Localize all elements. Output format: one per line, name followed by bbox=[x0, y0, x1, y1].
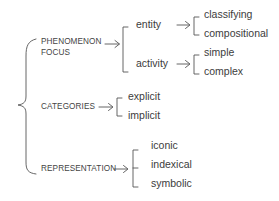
bracket-phenomenon bbox=[123, 27, 128, 72]
node-iconic: iconic bbox=[151, 140, 178, 151]
arrow-icon bbox=[99, 104, 113, 111]
arrow-icon bbox=[177, 61, 190, 68]
node-implicit: implicit bbox=[128, 110, 160, 121]
node-phenomenon-focus-line1: PHENOMENON bbox=[41, 38, 102, 46]
node-simple: simple bbox=[204, 47, 234, 58]
node-activity: activity bbox=[136, 58, 168, 69]
node-complex: complex bbox=[204, 66, 243, 77]
root-curly-brace bbox=[18, 39, 36, 174]
bracket-categories bbox=[117, 98, 122, 116]
arrow-icon bbox=[177, 22, 190, 29]
node-compositional: compositional bbox=[204, 28, 268, 39]
bracket-representation bbox=[133, 150, 138, 187]
bracket-activity bbox=[194, 55, 199, 74]
node-phenomenon-focus-line2: FOCUS bbox=[41, 49, 70, 57]
arrow-icon bbox=[105, 41, 120, 48]
node-symbolic: symbolic bbox=[151, 178, 192, 189]
node-representation: REPRESENTATION bbox=[41, 165, 116, 173]
node-classifying: classifying bbox=[204, 9, 252, 20]
node-indexical: indexical bbox=[151, 159, 192, 170]
bracket-entity bbox=[194, 17, 199, 35]
node-entity: entity bbox=[136, 19, 161, 30]
node-categories: CATEGORIES bbox=[41, 103, 95, 111]
node-explicit: explicit bbox=[128, 91, 160, 102]
